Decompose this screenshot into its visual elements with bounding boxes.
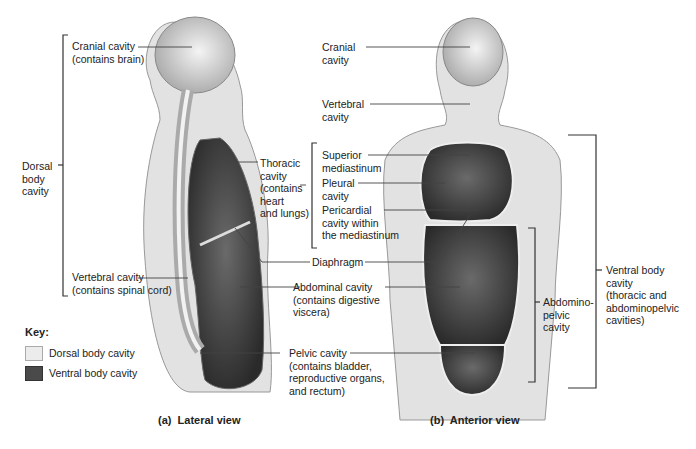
label-diaphragm: Diaphragm xyxy=(312,256,363,269)
label-abdominal-cavity: Abdominal cavity (contains digestive vis… xyxy=(293,281,380,319)
caption-lateral-view: (a) Lateral view xyxy=(158,414,241,427)
label-cranial-cavity-anterior: Cranial cavity xyxy=(322,41,355,66)
label-pleural-cavity: Pleural cavity xyxy=(322,177,355,202)
label-vertebral-cavity-anterior: Vertebral cavity xyxy=(322,98,364,123)
legend-label-ventral: Ventral body cavity xyxy=(49,367,137,380)
lateral-body xyxy=(144,17,272,392)
label-pelvic-cavity: Pelvic cavity (contains bladder, reprodu… xyxy=(289,347,385,397)
label-pericardial-cavity: Pericardial cavity within the mediastinu… xyxy=(322,204,399,242)
label-vertebral-cavity-lateral: Vertebral cavity (contains spinal cord) xyxy=(72,271,172,296)
legend-title: Key: xyxy=(25,326,49,339)
label-thoracic-cavity: Thoracic cavity (contains heart and lung… xyxy=(260,157,309,220)
legend-swatch-dorsal xyxy=(25,346,43,361)
label-abdominopelvic-cavity: Abdomino- pelvic cavity xyxy=(543,296,594,334)
caption-anterior-view: (b) Anterior view xyxy=(430,414,519,427)
label-superior-mediastinum: Superior mediastinum xyxy=(322,149,382,174)
label-cranial-cavity-lateral: Cranial cavity (contains brain) xyxy=(72,40,144,65)
legend-swatch-ventral xyxy=(25,366,43,381)
label-ventral-body-cavity: Ventral body cavity (thoracic and abdomi… xyxy=(606,264,679,327)
label-dorsal-body-cavity: Dorsal body cavity xyxy=(22,160,52,198)
legend-label-dorsal: Dorsal body cavity xyxy=(49,347,135,360)
